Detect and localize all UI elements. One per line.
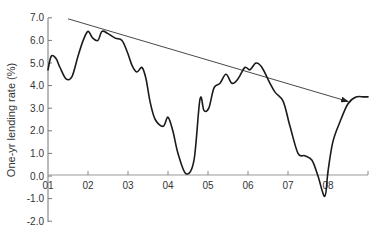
x-tick-label: 06 xyxy=(242,180,254,191)
y-tick-label: 1.0 xyxy=(30,148,44,159)
x-tick-label: 05 xyxy=(202,180,214,191)
y-tick-label: 4.0 xyxy=(30,80,44,91)
x-tick-label: 08 xyxy=(322,180,334,191)
y-tick-label: -2.0 xyxy=(27,216,45,227)
y-tick-label: -1.0 xyxy=(27,193,45,204)
y-axis-title: One-yr lending rate (%) xyxy=(5,63,17,177)
y-tick-label: 7.0 xyxy=(30,12,44,23)
trend-arrow xyxy=(68,19,348,102)
y-tick-label: 2.0 xyxy=(30,125,44,136)
x-tick-label: 01 xyxy=(42,180,54,191)
y-tick-label: 5.0 xyxy=(30,58,44,69)
y-tick-label: 6.0 xyxy=(30,35,44,46)
y-tick-label: 3.0 xyxy=(30,103,44,114)
x-tick-label: 07 xyxy=(282,180,294,191)
x-tick-label: 02 xyxy=(82,180,94,191)
line-chart: One-yr lending rate (%) 7.06.05.04.03.02… xyxy=(0,0,377,241)
x-tick-label: 03 xyxy=(122,180,134,191)
x-tick-label: 04 xyxy=(162,180,174,191)
